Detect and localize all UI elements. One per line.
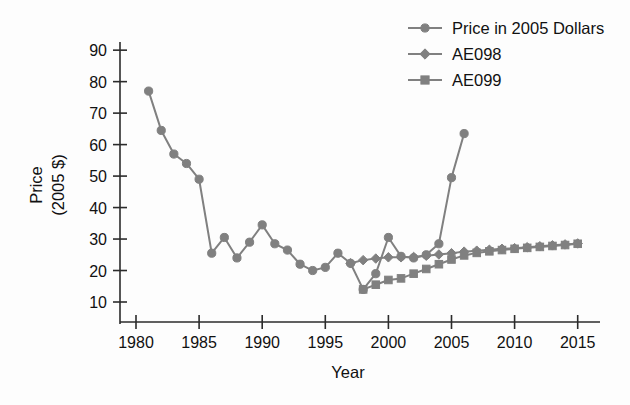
data-point-marker: [157, 126, 165, 134]
legend-item-label: AE098: [452, 45, 502, 63]
x-axis-tick-label: 1985: [181, 334, 217, 351]
legend-item[interactable]: Price in 2005 Dollars: [408, 19, 604, 37]
y-axis-title-line2: (2005 $): [49, 154, 67, 215]
data-point-marker: [321, 263, 329, 271]
data-point-marker: [435, 240, 443, 248]
data-point-marker: [296, 260, 304, 268]
data-point-marker: [245, 238, 253, 246]
data-point-marker: [410, 254, 418, 262]
axes-layer: 1020304050607080901980198519901995200020…: [89, 42, 600, 351]
data-point-marker: [410, 270, 418, 278]
y-axis-tick-label: 30: [89, 231, 107, 248]
y-axis-tick-label: 40: [89, 200, 107, 217]
chart-series: [359, 240, 581, 293]
data-point-marker: [422, 251, 430, 259]
chart-series: [145, 87, 469, 294]
data-point-marker: [358, 255, 368, 265]
x-axis-tick-label: 2010: [497, 334, 533, 351]
data-point-marker: [421, 76, 429, 84]
data-point-marker: [309, 266, 317, 274]
data-point-marker: [334, 249, 342, 257]
chart-figure: 1020304050607080901980198519901995200020…: [0, 0, 630, 405]
data-point-marker: [422, 265, 430, 273]
data-point-marker: [421, 24, 429, 32]
data-point-marker: [283, 246, 291, 254]
data-point-marker: [208, 249, 216, 257]
y-axis-tick-label: 80: [89, 74, 107, 91]
series-layer: [145, 87, 583, 294]
y-axis-tick-label: 10: [89, 294, 107, 311]
legend-layer: Price in 2005 DollarsAE098AE099: [408, 19, 604, 89]
x-axis-tick-label: 1995: [308, 334, 344, 351]
data-point-marker: [397, 252, 405, 260]
legend-item[interactable]: AE099: [408, 71, 502, 89]
y-axis-title-line1: Price: [27, 166, 45, 204]
data-point-marker: [182, 159, 190, 167]
data-point-marker: [271, 240, 279, 248]
data-point-marker: [145, 87, 153, 95]
data-point-marker: [233, 254, 241, 262]
data-point-marker: [460, 129, 468, 137]
y-axis-tick-label: 60: [89, 137, 107, 154]
x-axis-title: Year: [331, 363, 365, 381]
data-point-marker: [420, 49, 430, 59]
data-point-marker: [397, 275, 405, 283]
data-point-marker: [447, 174, 455, 182]
data-point-marker: [195, 175, 203, 183]
data-point-marker: [435, 260, 443, 268]
y-axis-tick-label: 50: [89, 168, 107, 185]
data-point-marker: [434, 250, 444, 260]
data-point-marker: [346, 259, 354, 267]
y-axis-tick-label: 20: [89, 263, 107, 280]
data-point-marker: [170, 150, 178, 158]
legend-item-label: AE099: [452, 71, 502, 89]
data-point-marker: [220, 233, 228, 241]
x-axis-tick-label: 1990: [244, 334, 280, 351]
data-point-marker: [372, 281, 380, 289]
legend-item-label: Price in 2005 Dollars: [452, 19, 604, 37]
chart-plot-area: 1020304050607080901980198519901995200020…: [0, 0, 630, 405]
data-point-marker: [385, 276, 393, 284]
x-axis-tick-label: 2005: [434, 334, 470, 351]
data-point-marker: [359, 285, 367, 293]
y-axis-tick-label: 90: [89, 42, 107, 59]
x-axis-tick-label: 1980: [118, 334, 154, 351]
data-point-marker: [372, 270, 380, 278]
x-axis-tick-label: 2000: [371, 334, 407, 351]
x-axis-tick-label: 2015: [560, 334, 596, 351]
data-point-marker: [258, 221, 266, 229]
data-point-marker: [384, 253, 394, 263]
chart-series: [346, 239, 583, 268]
legend-item[interactable]: AE098: [408, 45, 502, 63]
data-point-marker: [384, 233, 392, 241]
y-axis-tick-label: 70: [89, 105, 107, 122]
